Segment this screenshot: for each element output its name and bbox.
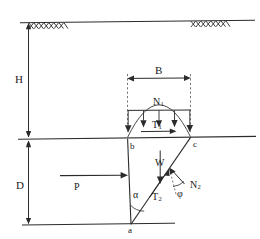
dimension-label-H: H bbox=[15, 74, 23, 85]
force-label-W: W bbox=[155, 158, 164, 168]
force-label-N1: N1 bbox=[153, 97, 164, 108]
point-label-b: b bbox=[130, 142, 135, 151]
bearing-capacity-diagram: H D B N1 T1 N2 T2 W P α φ a b c bbox=[0, 0, 260, 239]
dimension-label-B: B bbox=[155, 65, 162, 76]
point-label-c: c bbox=[193, 140, 197, 149]
wedge-vertical-face-ba bbox=[128, 139, 131, 224]
dimension-arrow-D bbox=[26, 141, 31, 224]
dimension-label-D: D bbox=[16, 180, 24, 191]
ground-surface-hatch-right bbox=[191, 21, 230, 27]
wedge-base-level-line bbox=[22, 223, 175, 225]
ground-surface-hatch-left bbox=[29, 23, 68, 29]
force-label-T1: T1 bbox=[152, 120, 162, 131]
point-label-a: a bbox=[128, 226, 132, 235]
force-label-N2: N2 bbox=[190, 180, 201, 191]
diagram-canvas bbox=[0, 0, 260, 239]
P-lateral-force-arrow bbox=[60, 172, 128, 178]
N2-normal-force-arrow bbox=[169, 167, 184, 184]
force-label-P: P bbox=[74, 182, 80, 192]
angle-label-alpha: α bbox=[133, 190, 138, 200]
foundation-level-line bbox=[18, 136, 256, 139]
B-dimension-arrow bbox=[127, 75, 191, 81]
force-label-T2: T2 bbox=[152, 192, 162, 203]
dimension-arrow-H bbox=[26, 23, 31, 137]
angle-label-phi: φ bbox=[177, 189, 183, 199]
